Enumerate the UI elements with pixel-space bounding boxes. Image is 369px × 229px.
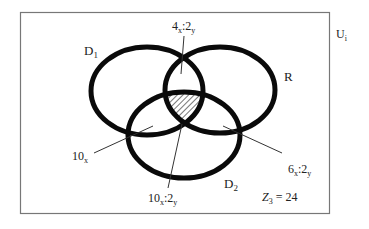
- set-label-r: R: [284, 69, 293, 84]
- region-label-d1-r-d2: 10x:2y: [148, 191, 177, 207]
- region-label-d1-d2: 10x: [72, 149, 88, 165]
- region-label-d1-r: 4x:2y: [172, 19, 195, 35]
- outside-count-label: Z3 = 24: [262, 190, 297, 206]
- universe-label: Ui: [336, 27, 348, 43]
- venn-diagram: D1 R D2 Ui 4x:2y 10x 6x:2y 10x:2y Z3 = 2…: [0, 0, 369, 229]
- leader-line-right: [223, 126, 282, 153]
- set-label-d2: D2: [224, 176, 238, 193]
- set-label-d1: D1: [84, 43, 98, 60]
- region-label-r-d2: 6x:2y: [288, 162, 311, 178]
